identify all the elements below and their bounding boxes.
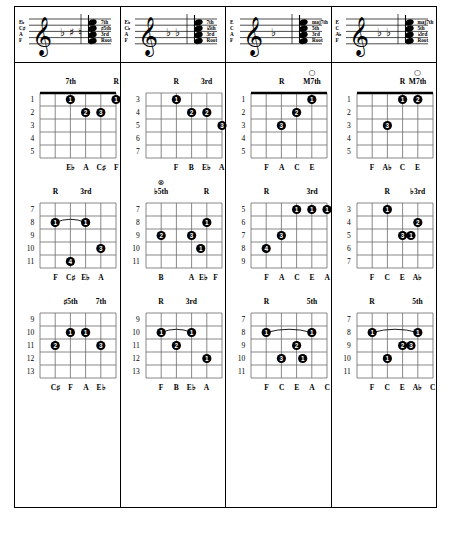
chord-diagram[interactable]: R5th789101111231FCEAC	[226, 283, 331, 393]
chord-diagram[interactable]: RM7th○12345123FA♭CE	[332, 63, 437, 173]
chord-note-name: B	[158, 273, 163, 282]
fret-number-column: 12345	[230, 91, 248, 162]
fret-number-column: 910111213	[19, 311, 37, 382]
chord-interval-label: 7th	[65, 77, 75, 86]
fret-number-column: 7891011	[125, 201, 143, 272]
svg-text:1: 1	[385, 355, 389, 362]
chord-note-name: F	[114, 163, 119, 172]
fret-number: 2	[347, 109, 351, 117]
svg-text:3: 3	[220, 122, 224, 129]
fret-number: 5	[242, 148, 246, 156]
fret-number: 10	[27, 329, 35, 337]
svg-text:2: 2	[84, 109, 88, 116]
chord-note-name: C	[430, 383, 435, 392]
staff-notation: 𝄞♭♯♮E♭C♯AF7th♯5th3rdRoot	[15, 7, 120, 63]
svg-text:3: 3	[401, 232, 405, 239]
svg-text:1: 1	[301, 355, 305, 362]
chord-diagram[interactable]: R5th789101111231FCEA♭C	[332, 283, 437, 393]
chord-diagram[interactable]: R3rd9101112131121FBE♭A	[121, 283, 226, 393]
chord-note-name: A	[279, 163, 284, 172]
chord-diagram[interactable]: R3rd345671223FBE♭A	[121, 63, 226, 173]
chord-interval-label: R	[158, 297, 163, 306]
chord-diagram[interactable]: R3rd78910111134FC♯E♭A	[15, 173, 120, 283]
chord-note-name: A♭	[382, 163, 391, 172]
chord-note-name: E	[415, 163, 420, 172]
svg-text:1: 1	[416, 329, 420, 336]
chord-interval-label: 5th	[307, 297, 317, 306]
staff-notation: 𝄞♭♭E♭C♭AF7th♭5th3rdRoot	[121, 7, 226, 63]
fret-number: 8	[31, 219, 35, 227]
fretboard-grid: 345671231	[336, 201, 432, 272]
fret-number-column: 7891011	[336, 311, 354, 382]
svg-text:2: 2	[401, 342, 405, 349]
chord-interval-label: 3rd	[201, 77, 212, 86]
chord-note-name: C	[384, 383, 389, 392]
chord-note-name: A♭	[413, 273, 422, 282]
fret-number: 11	[133, 258, 140, 266]
chord-note-name: A	[98, 273, 103, 282]
fret-number: 7	[242, 316, 246, 324]
fret-number-column: 910111213	[125, 311, 143, 382]
svg-text:1: 1	[174, 96, 178, 103]
svg-text:𝄞: 𝄞	[243, 15, 263, 57]
chord-diagram[interactable]: RM7th○12345123FACE	[226, 63, 331, 173]
fret-number-column: 7891011	[19, 201, 37, 272]
chord-interval-label: R	[400, 77, 405, 86]
chord-interval-label: R	[53, 187, 58, 196]
fret-number: 8	[242, 245, 246, 253]
chord-note-name: C♯	[66, 273, 75, 282]
fretboard-grid: 12345123	[230, 91, 326, 162]
fret-number: 1	[242, 96, 246, 104]
chord-diagram[interactable]: 7thR123451123E♭AC♯F	[15, 63, 120, 173]
chord-interval-label: M7th	[303, 77, 321, 86]
staff-note-label: F	[336, 38, 339, 43]
svg-text:1: 1	[265, 329, 269, 336]
fret-number: 5	[242, 206, 246, 214]
chord-interval-label: ♯5th	[64, 297, 78, 306]
chord-diagram[interactable]: R3rd5678911134FACEA	[226, 173, 331, 283]
svg-text:♭: ♭	[175, 26, 180, 39]
chord-note-name: C	[294, 163, 299, 172]
fret-number: 6	[136, 135, 140, 143]
chord-note-name: F	[53, 273, 58, 282]
fret-number: 9	[242, 258, 246, 266]
svg-text:1: 1	[159, 329, 163, 336]
chord-column: 𝄞♭♭ECA♭Fmaj7th5th♭3rdRootRM7th○12345123F…	[332, 7, 437, 507]
fret-number: 5	[347, 232, 351, 240]
chord-note-names: BAE♭F	[143, 272, 221, 283]
fret-number: 10	[132, 245, 140, 253]
fretboard-grid: 9101112131121	[125, 311, 221, 382]
chord-note-name: F	[264, 163, 269, 172]
svg-text:1: 1	[190, 329, 194, 336]
fret-number: 1	[347, 96, 351, 104]
chord-diagram[interactable]: ♭5thR⊗78910111231BAE♭F	[121, 173, 226, 283]
fretboard-grid: 5678911134	[230, 201, 326, 272]
chord-top-labels: ♯5th7th	[19, 289, 115, 311]
chord-note-name: C	[325, 383, 330, 392]
chord-interval-label: 3rd	[306, 187, 317, 196]
fret-number: 6	[242, 219, 246, 227]
chord-interval-label: 5th	[412, 297, 422, 306]
chord-note-name: C	[294, 273, 299, 282]
chord-diagram[interactable]: R♭3rd345671231FCEA♭	[332, 173, 437, 283]
chord-interval-label: ♭3rd	[410, 187, 425, 196]
fret-number: 13	[132, 368, 140, 376]
svg-text:𝄞: 𝄞	[349, 15, 369, 57]
fret-number-column: 12345	[19, 91, 37, 162]
svg-text:♭: ♭	[386, 26, 391, 39]
svg-text:1: 1	[370, 329, 374, 336]
fret-number: 10	[238, 355, 246, 363]
svg-text:𝄞: 𝄞	[32, 15, 52, 57]
svg-text:1: 1	[69, 96, 73, 103]
chord-note-name: A	[189, 273, 194, 282]
svg-text:1: 1	[325, 206, 329, 213]
svg-text:3: 3	[280, 355, 284, 362]
fret-number: 8	[242, 329, 246, 337]
staff-interval-label: Root	[207, 38, 218, 43]
fret-number: 11	[238, 368, 245, 376]
svg-text:𝄞: 𝄞	[138, 15, 158, 57]
chord-diagram[interactable]: ♯5th7th9101112131123C♯FAE♭	[15, 283, 120, 393]
fretboard-grid: 345671223	[125, 91, 221, 162]
fret-number-column: 56789	[230, 201, 248, 272]
chord-note-name: E♭	[202, 163, 211, 172]
